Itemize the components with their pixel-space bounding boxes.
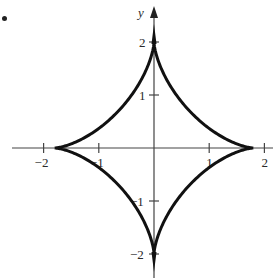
x-tick-label: −2: [35, 155, 49, 170]
x-ticks: −2−112: [35, 143, 268, 170]
plot-area: y −2−112 21−1−2: [0, 0, 273, 278]
top-cusp-spike: [152, 24, 157, 44]
astroid-figure: y −2−112 21−1−2: [0, 0, 273, 278]
x-tick-label: 2: [261, 155, 268, 170]
bullet-marker: [2, 16, 7, 21]
y-axis-arrow-icon: [150, 6, 158, 18]
y-tick-label: 2: [139, 35, 146, 50]
y-tick-label: 1: [139, 88, 146, 103]
bottom-cusp-spike: [152, 252, 157, 272]
y-tick-label: −2: [130, 247, 144, 262]
y-axis-label: y: [136, 5, 144, 20]
